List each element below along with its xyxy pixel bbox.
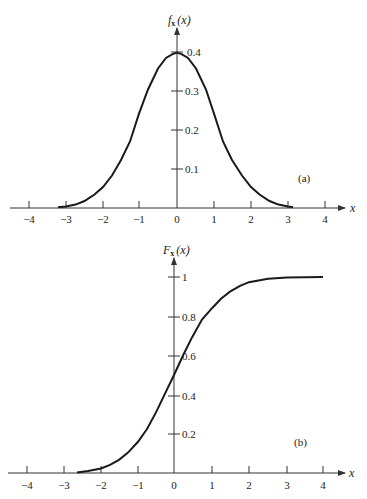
figure: −4 −3 −2 −1 0 1 2 3 4 0.1 0.2 0.3 0.4 fx… [0,0,367,499]
y-axis-label: Fx(x) [162,243,190,258]
x-tick-label: 1 [209,479,215,491]
y-tick-label: 0.2 [182,428,196,440]
cdf-curve [77,277,323,473]
y-axis-label: fx(x) [168,13,191,28]
x-tick-label: −4 [23,213,35,225]
y-tick-label: 0.8 [182,311,196,323]
panel-tag: (a) [298,172,311,185]
y-tick-label: 0.4 [182,390,196,402]
panel-a-pdf-chart: −4 −3 −2 −1 0 1 2 3 4 0.1 0.2 0.3 0.4 fx… [10,13,356,225]
x-tick-label: 3 [284,479,290,491]
x-tick-labels: −4 −3 −2 −1 0 1 2 3 4 [23,213,328,225]
panel-b-cdf-chart: −4 −3 −2 −1 0 1 2 3 4 0.2 0.4 0.6 0.8 1 … [8,243,355,491]
x-ticks [27,466,323,473]
y-tick-labels: 0.2 0.4 0.6 0.8 1 [182,271,196,440]
x-tick-label: −3 [60,213,72,225]
y-tick-label: 0.4 [187,46,201,58]
x-tick-label: −2 [95,479,107,491]
x-tick-labels: −4 −3 −2 −1 0 1 2 3 4 [21,479,326,491]
x-tick-label: −1 [132,479,144,491]
x-tick-label: 1 [211,213,217,225]
x-tick-label: 0 [171,479,177,491]
y-tick-label: 0.3 [185,85,199,97]
x-axis-label: x [349,201,356,215]
x-tick-label: 3 [285,213,291,225]
x-tick-label: 2 [248,213,254,225]
y-tick-label: 1 [182,271,188,283]
x-tick-label: 4 [320,479,326,491]
y-tick-label: 0.1 [185,163,199,175]
x-tick-label: −4 [21,479,33,491]
x-tick-label: 4 [322,213,328,225]
x-axis-label: x [348,466,355,480]
panel-tag: (b) [294,436,307,449]
x-tick-label: −2 [97,213,109,225]
x-tick-label: −3 [58,479,70,491]
x-tick-label: 0 [174,213,180,225]
y-tick-label: 0.2 [185,124,199,136]
x-tick-label: −1 [133,213,145,225]
x-tick-label: 2 [246,479,252,491]
